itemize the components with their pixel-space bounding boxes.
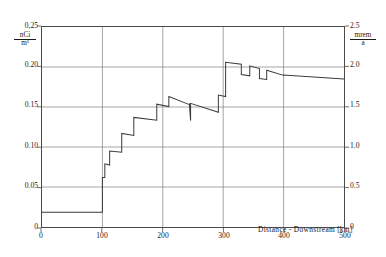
y-left-unit-denominator: m³: [14, 39, 36, 47]
y-right-tick-label-4: 0.5: [350, 181, 360, 190]
x-tick-label-3: 300: [207, 231, 241, 240]
data-series-concentration: [42, 27, 344, 227]
y-right-tick-label-3: 1.0: [350, 141, 360, 150]
y-left-tick-label-4: 0.05: [25, 181, 38, 190]
y-right-axis-unit: mrem a: [350, 32, 376, 48]
y-right-tick-label-0: 2.5: [350, 21, 360, 30]
y-right-tick-label-2: 1.5: [350, 100, 360, 109]
chart-figure: 0,25 0.20 0.15 0.10 0.05 0 nCi m³ 2.5 2.…: [0, 0, 386, 257]
y-left-tick-label-3: 0.10: [25, 141, 38, 150]
x-axis-caption-text: Distance - Downstream: [258, 225, 335, 234]
plot-area: Distance - Downstream [km]: [41, 26, 345, 228]
y-left-tick-label-1: 0.20: [25, 60, 38, 69]
x-tick-label-2: 200: [146, 231, 180, 240]
x-tick-label-1: 100: [85, 231, 119, 240]
y-right-unit-numerator: mrem: [350, 32, 376, 39]
y-right-tick-label-1: 2.0: [350, 60, 360, 69]
y-left-axis-unit: nCi m³: [14, 32, 36, 48]
x-axis-caption: Distance - Downstream [km]: [258, 225, 352, 234]
x-axis-unit-text: km: [340, 225, 350, 234]
y-left-tick-label-0: 0,25: [25, 21, 38, 30]
y-left-tick-label-2: 0.15: [25, 100, 38, 109]
y-right-unit-denominator: a: [350, 39, 376, 47]
y-left-unit-numerator: nCi: [14, 32, 36, 39]
x-tick-label-0: 0: [24, 231, 58, 240]
y-left-tick-label-5: 0: [34, 222, 38, 231]
x-axis-unit-bracket-close: ]: [350, 225, 352, 234]
